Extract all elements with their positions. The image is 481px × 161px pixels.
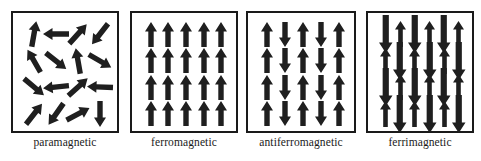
spin-arrow bbox=[214, 48, 228, 73]
spin-arrow bbox=[332, 75, 346, 100]
panel-caption-antiferromagnetic: antiferromagnetic bbox=[246, 136, 356, 148]
panel-border-ferromagnetic bbox=[130, 11, 238, 133]
spin-grid-paramagnetic bbox=[13, 13, 117, 131]
spin-arrow bbox=[296, 75, 310, 100]
magnetic-ordering-figure: paramagneticferromagneticantiferromagnet… bbox=[0, 0, 481, 161]
panel-border-paramagnetic bbox=[11, 11, 119, 133]
spin-arrow bbox=[144, 101, 158, 126]
panel-border-antiferromagnetic bbox=[246, 11, 356, 133]
spin-arrow bbox=[20, 99, 47, 128]
spin-arrow bbox=[63, 101, 93, 126]
spin-arrow bbox=[69, 47, 87, 75]
spin-arrow bbox=[197, 101, 211, 126]
spin-arrow bbox=[260, 48, 274, 73]
spin-arrow bbox=[408, 101, 421, 127]
spin-arrow bbox=[41, 47, 70, 74]
panel-antiferromagnetic: antiferromagnetic bbox=[246, 0, 356, 161]
spin-arrow bbox=[87, 80, 113, 95]
panel-ferromagnetic: ferromagnetic bbox=[130, 0, 238, 161]
spin-arrow bbox=[214, 22, 228, 47]
spin-arrow bbox=[314, 48, 328, 73]
spin-arrow bbox=[296, 101, 310, 126]
spin-arrow bbox=[278, 48, 292, 73]
spin-arrow bbox=[144, 75, 158, 100]
spin-arrow bbox=[161, 75, 175, 100]
spin-arrow bbox=[438, 101, 451, 127]
spin-arrow bbox=[21, 46, 46, 76]
spin-grid-ferromagnetic bbox=[132, 13, 236, 131]
panel-ferrimagnetic: ferrimagnetic bbox=[366, 0, 474, 161]
panel-caption-ferrimagnetic: ferrimagnetic bbox=[366, 136, 474, 148]
spin-arrow bbox=[214, 101, 228, 126]
spin-arrow bbox=[161, 101, 175, 126]
spin-grid-ferrimagnetic bbox=[368, 13, 472, 131]
spin-arrow bbox=[179, 75, 193, 100]
panel-border-ferrimagnetic bbox=[366, 11, 474, 133]
spin-arrow bbox=[197, 48, 211, 73]
spin-arrow bbox=[296, 22, 310, 47]
spin-arrow bbox=[161, 48, 175, 73]
spin-arrow bbox=[214, 75, 228, 100]
spin-arrow bbox=[64, 20, 92, 49]
spin-arrow bbox=[144, 22, 158, 47]
spin-arrow bbox=[314, 75, 328, 100]
spin-arrow bbox=[197, 75, 211, 100]
spin-arrow bbox=[179, 22, 193, 47]
panel-paramagnetic: paramagnetic bbox=[11, 0, 119, 161]
spin-arrow bbox=[260, 22, 274, 47]
spin-arrow bbox=[93, 101, 107, 127]
spin-arrow bbox=[296, 48, 310, 73]
spin-arrow bbox=[179, 48, 193, 73]
spin-arrow bbox=[278, 101, 292, 126]
spin-arrow bbox=[144, 48, 158, 73]
panel-caption-ferromagnetic: ferromagnetic bbox=[130, 136, 238, 148]
spin-arrow bbox=[197, 22, 211, 47]
spin-arrow bbox=[86, 20, 113, 49]
spin-arrow bbox=[314, 22, 328, 47]
spin-arrow bbox=[332, 22, 346, 47]
spin-arrow bbox=[85, 48, 115, 73]
spin-arrow bbox=[260, 101, 274, 126]
spin-arrow bbox=[179, 101, 193, 126]
spin-arrow bbox=[278, 22, 292, 47]
spin-arrow bbox=[161, 22, 175, 47]
spin-arrow bbox=[451, 95, 467, 133]
spin-arrow bbox=[260, 75, 274, 100]
spin-arrow bbox=[332, 101, 346, 126]
spin-arrow bbox=[25, 20, 43, 48]
spin-arrow bbox=[422, 95, 438, 133]
spin-arrow bbox=[332, 48, 346, 73]
spin-grid-antiferromagnetic bbox=[248, 13, 354, 131]
panel-caption-paramagnetic: paramagnetic bbox=[11, 136, 119, 148]
spin-arrow bbox=[278, 75, 292, 100]
spin-arrow bbox=[379, 101, 392, 127]
spin-arrow bbox=[392, 95, 408, 133]
spin-arrow bbox=[314, 101, 328, 126]
